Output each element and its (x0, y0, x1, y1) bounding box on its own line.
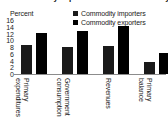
chart-figure: Commodity exporters versus commodity imp… (0, 0, 168, 130)
x-axis-line (14, 74, 166, 75)
legend-label-importers: Commodity importers (81, 9, 146, 18)
bar-exporters (118, 26, 129, 74)
legend-swatch-importers (73, 11, 78, 16)
y-axis-tick-0: 0 (0, 71, 14, 78)
chart-title-text: Commodity exporters versus commodity imp… (14, 0, 168, 2)
category-label-line2: balance (137, 78, 145, 102)
bar-importers (144, 62, 155, 74)
bar-exporters (159, 53, 168, 74)
chart-title-cropped: Commodity exporters versus commodity imp… (0, 0, 168, 5)
legend-item-commodity-importers: Commodity importers (73, 9, 146, 18)
bar-exporters (36, 33, 47, 75)
category-label: Primarybalance (145, 78, 153, 101)
category-label-line1: Primary (23, 78, 30, 101)
plot-area: 1614121086420 (16, 20, 166, 74)
category-label-line1: Revenues (105, 78, 112, 109)
category-label: Governmentconsumption (63, 78, 71, 116)
bar-importers (62, 47, 73, 74)
bar-exporters (77, 31, 88, 74)
bar-importers (21, 45, 32, 74)
category-label: Primaryexpenditures (22, 78, 30, 101)
category-label-line1: Government (64, 78, 71, 116)
category-label-line2: expenditures (14, 78, 22, 117)
category-label-line1: Primary (146, 78, 153, 101)
category-label-line2: consumption (55, 78, 63, 117)
category-label: Revenues (104, 78, 112, 109)
bar-importers (103, 46, 114, 74)
